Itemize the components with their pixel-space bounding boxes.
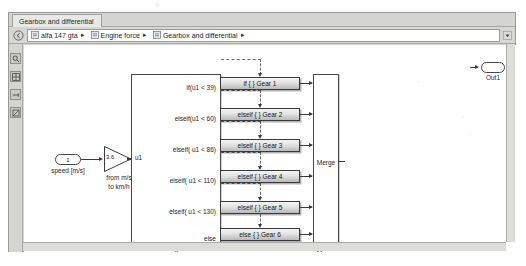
if-condition-6: else [204, 235, 216, 242]
breadcrumb-item-alfa-147-gta[interactable]: alfa 147 gta [28, 31, 78, 39]
breadcrumb-separator: ▸ [143, 31, 147, 39]
subsystem-icon [91, 31, 99, 39]
grid-icon[interactable] [10, 71, 21, 82]
action-block-gear-6[interactable]: else { } Gear 6 [220, 228, 300, 241]
action-block-gear-1[interactable]: if { } Gear 1 [220, 77, 300, 90]
subsystem-icon [153, 31, 161, 39]
breadcrumb-label: Gearbox and differential [163, 32, 238, 39]
breadcrumb-bar: alfa 147 gta ▸ Engine force ▸ [9, 27, 515, 44]
breadcrumb[interactable]: alfa 147 gta ▸ Engine force ▸ [27, 29, 500, 42]
tab-gearbox-and-differential[interactable]: Gearbox and differential [12, 14, 102, 27]
breadcrumb-label: alfa 147 gta [41, 32, 78, 39]
action-block-gear-2[interactable]: elseif { } Gear 2 [220, 108, 300, 121]
merge-block[interactable]: Merge [313, 74, 339, 249]
if-condition-3: elseif( u1 < 86) [173, 146, 216, 153]
canvas-tool-rail [9, 44, 23, 252]
stamp-icon[interactable] [10, 107, 21, 118]
outport-out1[interactable] [481, 62, 505, 73]
if-input-label-u1: u1 [135, 154, 142, 161]
simulink-screenshot: ○ Gearbox and differential [0, 0, 526, 266]
inport-speed-label: speed [m/s] [42, 167, 94, 174]
if-condition-2: elseif(u1 < 60) [175, 115, 216, 122]
vertical-scrollbar[interactable] [506, 44, 515, 242]
canvas-artifact: · [418, 78, 420, 85]
control-line-4 [221, 152, 261, 153]
if-condition-5: elseif( u1 < 130) [169, 208, 216, 215]
breadcrumb-item-gearbox-and-differential[interactable]: Gearbox and differential [150, 31, 238, 39]
breadcrumb-item-engine-force[interactable]: Engine force [88, 31, 140, 39]
breadcrumb-separator: ▸ [81, 31, 85, 39]
chevron-down-icon[interactable] [501, 29, 513, 42]
inport-speed[interactable]: 1 [55, 154, 81, 165]
if-condition-4: elseif( u1 < 110) [170, 177, 216, 184]
signal-arrow-outport [475, 65, 479, 69]
gain-value: 3.6 [106, 154, 114, 160]
model-icon [31, 31, 39, 39]
signal-line-merge-out [339, 161, 345, 162]
model-editor-window: Gearbox and differential [8, 12, 516, 252]
horizontal-scrollbar[interactable] [23, 242, 506, 251]
magnifier-icon[interactable] [10, 53, 21, 64]
breadcrumb-label: Engine force [101, 32, 140, 39]
model-canvas[interactable]: 1 speed [m/s] 3.6 from m/s to km/h [24, 45, 516, 252]
if-condition-1: if(u1 < 39) [187, 84, 216, 91]
signal-line-speed-to-gain [81, 159, 101, 160]
if-block[interactable]: if(u1 < 39) elseif(u1 < 60) elseif( u1 <… [131, 74, 221, 249]
page-artifact: ○ [155, 1, 159, 8]
control-line-5 [221, 183, 261, 184]
arrow-tool-icon[interactable] [10, 89, 21, 100]
control-line-1 [221, 59, 261, 60]
action-block-gear-4[interactable]: elseif { } Gear 4 [220, 170, 300, 183]
canvas-artifact: · [462, 113, 464, 120]
merge-block-text: Merge [314, 158, 338, 165]
outport-out1-label: Out1 [476, 74, 510, 81]
back-arrow-icon[interactable] [12, 29, 25, 42]
control-line-2 [221, 90, 261, 91]
control-line-3 [221, 121, 261, 122]
action-block-gear-5[interactable]: elseif { } Gear 5 [220, 201, 300, 214]
action-block-gear-3[interactable]: elseif { } Gear 3 [220, 139, 300, 152]
canvas-artifact: · [469, 131, 471, 138]
breadcrumb-separator: ▸ [241, 31, 245, 39]
tab-strip: Gearbox and differential [9, 13, 515, 27]
